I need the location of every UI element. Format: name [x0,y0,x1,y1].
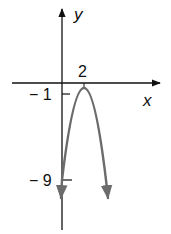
x-axis-label: x [142,91,152,110]
parabola-graph: y x 2 − 1 − 9 [0,0,171,234]
tick-label-neg1: − 1 [29,86,52,103]
vertex-x-label: 2 [78,63,87,80]
y-axis-label: y [73,5,84,24]
tick-label-neg9: − 9 [29,172,52,189]
parabola-left-extension [61,180,62,198]
parabola-curve [62,88,108,198]
